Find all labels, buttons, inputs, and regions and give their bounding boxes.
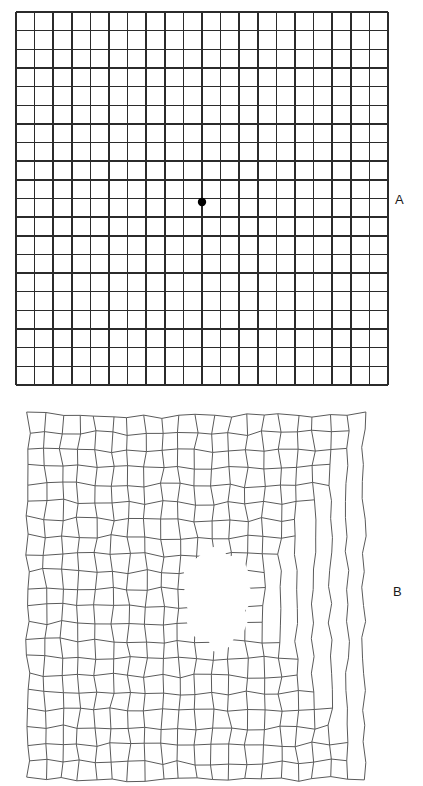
figure-canvas (0, 0, 423, 786)
figure-background (0, 0, 423, 786)
amsler-grid-figure: A B (0, 0, 423, 786)
panel-label-a: A (395, 192, 404, 207)
panel-label-b: B (393, 584, 402, 599)
panel-a-grid (16, 12, 388, 385)
central-fixation-dot (198, 198, 206, 206)
